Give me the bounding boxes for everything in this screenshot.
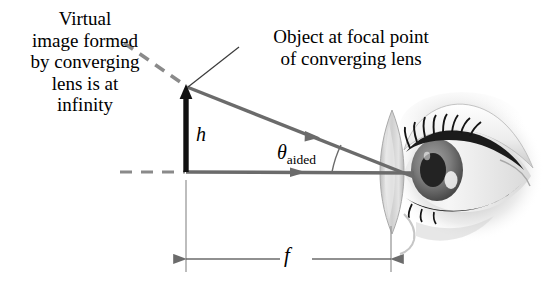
object-height-label: h — [196, 123, 206, 146]
theta-symbol: θ — [277, 141, 287, 163]
optics-diagram-canvas: Virtual image formed by converging lens … — [0, 0, 544, 306]
object-label-leader — [188, 47, 239, 87]
angle-aided-label: θaided — [277, 141, 316, 168]
eye-illustration — [392, 92, 544, 254]
nose-profile — [400, 214, 415, 254]
virtual-image-label: Virtual image formed by converging lens … — [0, 8, 170, 116]
object-arrow-head — [180, 84, 193, 99]
axial-ray-arrowhead — [290, 168, 306, 178]
theta-subscript: aided — [287, 152, 316, 167]
pupil — [420, 153, 446, 187]
object-focal-point-label: Object at focal point of converging lens — [236, 26, 466, 69]
object-arrow — [180, 84, 193, 172]
pupil-highlight — [424, 152, 430, 160]
focal-length-label: f — [284, 243, 290, 268]
angle-arc — [332, 145, 341, 172]
leader-lines — [188, 47, 239, 87]
iris-highlight — [445, 171, 458, 189]
